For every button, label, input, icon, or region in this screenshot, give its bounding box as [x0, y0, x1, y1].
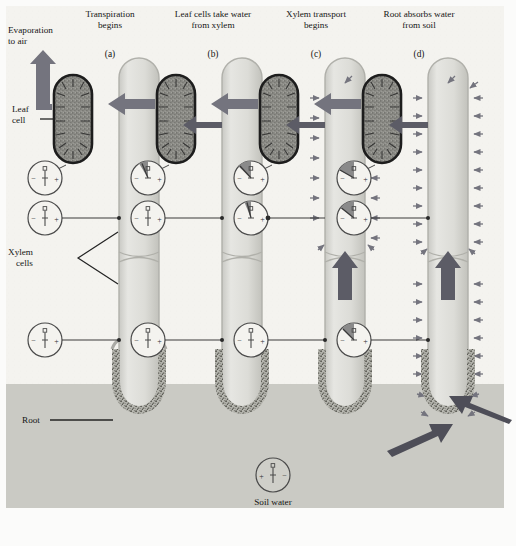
svg-text:−: − — [134, 336, 139, 345]
panel-b-title-line1: Leaf cells take water — [175, 9, 251, 19]
svg-text:+: + — [363, 337, 368, 346]
transpiration-diagram: Transpiration begins (a) Evaporation to … — [0, 0, 516, 546]
soil-water-gauge: + − — [256, 458, 290, 492]
svg-text:+: + — [54, 215, 59, 224]
svg-text:−: − — [237, 214, 242, 223]
soil-water-gauge-plus: + — [259, 472, 264, 481]
svg-text:−: − — [134, 214, 139, 223]
svg-text:+: + — [260, 175, 265, 184]
leaf-cell-a — [54, 75, 92, 163]
svg-text:+: + — [260, 215, 265, 224]
svg-text:+: + — [157, 175, 162, 184]
svg-text:−: − — [340, 214, 345, 223]
panel-c-title-line2: begins — [304, 20, 328, 30]
svg-text:+: + — [157, 337, 162, 346]
leaf-cell-label-line1: Leaf — [12, 104, 30, 114]
panel-d-letter: (d) — [414, 49, 425, 60]
xylem-column-d — [428, 58, 468, 408]
svg-text:+: + — [157, 215, 162, 224]
svg-text:−: − — [31, 174, 36, 183]
soil-water-gauge-minus: − — [282, 471, 287, 480]
svg-text:−: − — [340, 336, 345, 345]
panel-b-letter: (b) — [208, 49, 219, 60]
svg-text:+: + — [363, 175, 368, 184]
panel-c-title-line1: Xylem transport — [286, 9, 346, 19]
svg-text:−: − — [134, 174, 139, 183]
panel-c-letter: (c) — [311, 49, 321, 60]
xylem-cells-label-line1: Xylem — [8, 247, 33, 257]
panel-a-letter: (a) — [105, 49, 115, 60]
svg-text:+: + — [260, 337, 265, 346]
panel-d-title-line2: from soil — [402, 20, 436, 30]
leaf-cell-b — [157, 75, 195, 163]
svg-text:−: − — [237, 336, 242, 345]
panel-a-title-line2: begins — [98, 20, 122, 30]
svg-text:−: − — [237, 174, 242, 183]
svg-text:+: + — [363, 215, 368, 224]
svg-text:+: + — [54, 337, 59, 346]
evaporation-label-line2: to air — [8, 36, 27, 46]
svg-text:−: − — [31, 214, 36, 223]
evaporation-label-line1: Evaporation — [8, 25, 53, 35]
leaf-cell-d — [363, 75, 401, 163]
svg-text:+: + — [54, 175, 59, 184]
panel-b-title-line2: from xylem — [191, 20, 234, 30]
leaf-cell-label-line2: cell — [12, 115, 26, 125]
xylem-cells-label-line2: cells — [16, 258, 33, 268]
root-label: Root — [22, 415, 40, 425]
figure-canvas: Transpiration begins (a) Evaporation to … — [0, 0, 516, 546]
panel-d-title-line1: Root absorbs water — [384, 9, 455, 19]
svg-text:−: − — [340, 174, 345, 183]
leaf-cell-c — [260, 75, 298, 163]
svg-text:−: − — [31, 336, 36, 345]
panel-a-title-line1: Transpiration — [85, 9, 135, 19]
soil-water-label: Soil water — [254, 497, 292, 507]
